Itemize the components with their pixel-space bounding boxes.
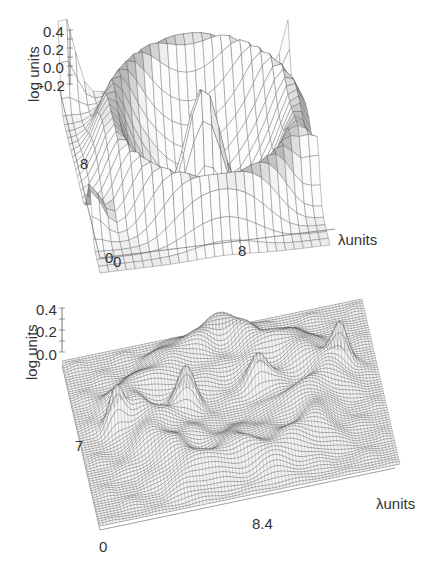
z-tick-0.2-bottom: 0.2 bbox=[36, 324, 57, 339]
z-tick-0.4-bottom: 0.4 bbox=[36, 302, 57, 317]
y-tick-mid-top: 8 bbox=[80, 156, 88, 171]
z-tick-neg0.2-top: -0.2 bbox=[39, 78, 65, 93]
z-tick-0.4-top: 0.4 bbox=[43, 24, 64, 39]
surface-mesh-bottom bbox=[0, 290, 434, 568]
x-axis-label-top: λunits bbox=[338, 232, 377, 247]
z-tick-0.2-top: 0.2 bbox=[43, 42, 64, 57]
x-axis-label-bottom: λunits bbox=[376, 496, 415, 511]
surface-plot-top: log units 0.4 0.2 0.0 -0.2 8 0 0 8 λunit… bbox=[0, 0, 434, 290]
y-tick-mid-bottom: 7 bbox=[75, 438, 83, 453]
z-tick-0.0-top: 0.0 bbox=[43, 60, 64, 75]
x-tick-mid-top: 8 bbox=[238, 243, 246, 258]
x-tick-mid-bottom: 8.4 bbox=[252, 516, 273, 531]
x-origin-top: 0 bbox=[113, 254, 121, 269]
origin-bottom: 0 bbox=[99, 539, 107, 554]
z-tick-0.0-bottom: 0.0 bbox=[36, 347, 57, 362]
surface-plot-bottom: log units 0.4 0.2 0.0 7 0 8.4 λunits bbox=[0, 290, 434, 568]
